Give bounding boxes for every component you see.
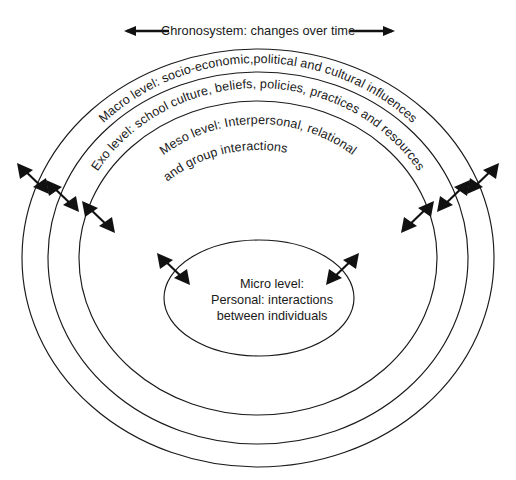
double-headed-arrow-icon bbox=[467, 163, 499, 194]
micro-label-line-1: Micro level: bbox=[240, 277, 304, 291]
ecological-systems-diagram: Chronosystem: changes over time Macro le… bbox=[0, 0, 516, 480]
double-headed-arrow-icon bbox=[82, 201, 115, 233]
chronosystem-label: Chronosystem: changes over time bbox=[161, 23, 355, 38]
micro-label-line-2: Personal: interactions bbox=[211, 293, 333, 307]
ring-label-micro: Micro level: Personal: interactions betw… bbox=[211, 277, 333, 323]
double-headed-arrow-icon bbox=[17, 163, 49, 194]
ring-macro-outline bbox=[22, 49, 494, 467]
double-headed-arrow-icon bbox=[401, 201, 434, 233]
interaction-arrows-left bbox=[17, 163, 190, 285]
interaction-arrows-right bbox=[326, 163, 499, 285]
chronosystem-group: Chronosystem: changes over time bbox=[124, 23, 395, 38]
arrow-right-icon bbox=[350, 26, 395, 36]
double-headed-arrow-icon bbox=[437, 180, 470, 212]
diagram-canvas: Chronosystem: changes over time Macro le… bbox=[0, 0, 516, 480]
double-headed-arrow-icon bbox=[157, 253, 190, 285]
double-headed-arrow-icon bbox=[326, 253, 359, 285]
ring-exo-outline bbox=[48, 72, 468, 444]
micro-label-line-3: between individuals bbox=[217, 309, 328, 323]
double-headed-arrow-icon bbox=[46, 180, 79, 212]
